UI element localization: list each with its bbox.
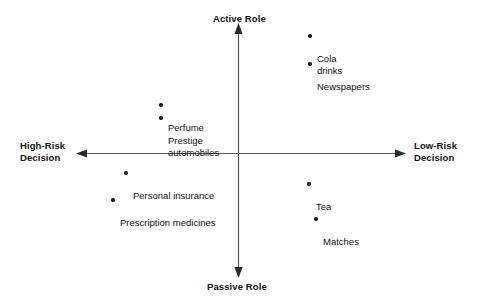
data-point-label: Newspapers	[308, 81, 370, 93]
decision-matrix-chart: Active Role Passive Role High-Risk Decis…	[0, 0, 487, 308]
axis-label-active-role: Active Role	[213, 13, 266, 25]
axis-arrow-right	[395, 149, 406, 157]
marker-dot	[159, 103, 163, 107]
axis-label-low-risk-decision: Low-Risk Decision	[414, 140, 457, 163]
axis-arrow-down	[234, 267, 242, 278]
data-point-prescription-medicines: Prescription medicines	[111, 194, 216, 240]
data-point-label: Prestige automobiles	[159, 135, 219, 158]
marker-dot	[314, 217, 318, 221]
marker-dot	[307, 182, 311, 186]
marker-dot	[124, 171, 128, 175]
axis-arrow-up	[234, 23, 242, 34]
marker-dot	[111, 198, 115, 202]
marker-dot	[308, 34, 312, 38]
data-point-matches: Matches	[314, 213, 359, 259]
axis-arrow-left	[76, 149, 87, 157]
marker-dot	[308, 62, 312, 66]
data-point-newspapers: Newspapers	[308, 58, 370, 104]
axis-label-high-risk-decision: High-Risk Decision	[20, 140, 65, 163]
data-point-label: Tea	[307, 201, 331, 213]
data-point-label: Matches	[314, 236, 359, 248]
axis-label-passive-role: Passive Role	[207, 281, 267, 293]
data-point-label: Prescription medicines	[111, 217, 216, 229]
data-point-prestige-automobiles: Prestige automobiles	[159, 112, 219, 170]
marker-dot	[159, 116, 163, 120]
